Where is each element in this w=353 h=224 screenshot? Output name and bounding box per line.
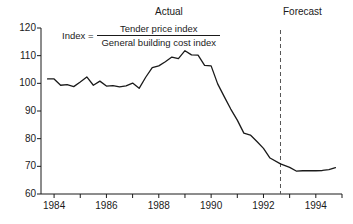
x-tick-label: 1992	[243, 201, 283, 211]
data-line	[48, 51, 336, 171]
y-tick-marks	[37, 28, 41, 194]
x-tick-label: 1990	[191, 201, 231, 211]
y-tick-label: 70	[4, 161, 36, 171]
x-tick-label: 1994	[296, 201, 336, 211]
y-tick-label: 90	[4, 106, 36, 116]
x-tick-marks	[54, 194, 342, 198]
axes	[41, 28, 342, 194]
data-series-group	[48, 51, 336, 171]
y-tick-label: 100	[4, 78, 36, 88]
x-tick-label: 1986	[86, 201, 126, 211]
plot-area	[0, 0, 353, 224]
y-tick-label: 110	[4, 51, 36, 61]
y-tick-label: 80	[4, 134, 36, 144]
y-tick-label: 60	[4, 189, 36, 199]
chart-container: Actual Forecast Index = Tender price ind…	[0, 0, 353, 224]
x-tick-label: 1988	[139, 201, 179, 211]
y-tick-label: 120	[4, 23, 36, 33]
x-tick-label: 1984	[34, 201, 74, 211]
